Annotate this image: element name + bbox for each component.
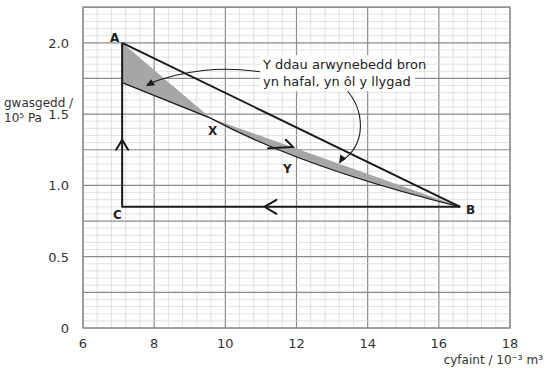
y-tick-label: 2.0	[48, 36, 69, 51]
x-tick-label: 18	[502, 336, 519, 351]
arrowhead-right-icon	[339, 155, 346, 164]
point-label-b: B	[466, 203, 475, 217]
y-axis-label-line1: gwasgedd /	[4, 96, 74, 110]
point-label-y: Y	[282, 162, 292, 176]
callout-text-line1: Y ddau arwynebedd bron	[262, 57, 426, 72]
point-label-a: A	[110, 31, 120, 45]
y-tick-label: 0	[61, 321, 69, 336]
x-tick-label: 6	[79, 336, 87, 351]
callout-arrow-right	[339, 88, 360, 163]
point-label-x: X	[208, 124, 218, 138]
x-tick-label: 16	[431, 336, 448, 351]
pv-chart: 68101214161800.51.01.52.0 gwasgedd / 10⁵…	[0, 0, 546, 368]
callout-text-line2: yn hafal, yn ôl y llygad	[263, 74, 411, 89]
x-tick-label: 12	[288, 336, 305, 351]
y-axis-label-line2: 10⁵ Pa	[4, 111, 42, 125]
y-tick-label: 1.0	[48, 178, 69, 193]
x-tick-label: 10	[217, 336, 234, 351]
shaded-lobe-lower	[211, 118, 460, 206]
y-tick-label: 0.5	[48, 250, 69, 265]
x-axis-label: cyfaint / 10⁻³ m³	[444, 353, 544, 367]
point-label-c: C	[113, 208, 122, 222]
x-tick-label: 8	[150, 336, 158, 351]
x-tick-label: 14	[359, 336, 376, 351]
